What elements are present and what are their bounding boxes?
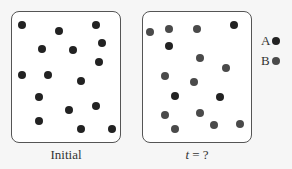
particle-a-dot bbox=[55, 27, 63, 35]
particle-a-dot bbox=[18, 21, 26, 29]
particle-a-dot bbox=[230, 21, 238, 29]
particle-b-dot bbox=[193, 25, 201, 33]
particle-a-dot bbox=[92, 21, 100, 29]
particle-a-dot bbox=[95, 58, 103, 66]
particle-b-dot bbox=[171, 125, 179, 133]
panel-label-initial: Initial bbox=[11, 147, 121, 163]
particle-b-dot bbox=[222, 64, 230, 72]
legend-a-dot bbox=[272, 37, 280, 45]
particle-a-dot bbox=[38, 45, 46, 53]
particle-b-dot bbox=[161, 111, 169, 119]
particle-b-dot bbox=[196, 109, 204, 117]
particle-a-dot bbox=[69, 46, 77, 54]
particle-a-dot bbox=[18, 71, 26, 79]
particle-b-dot bbox=[196, 54, 204, 62]
particle-a-dot bbox=[65, 106, 73, 114]
particle-a-dot bbox=[92, 102, 100, 110]
particle-a-dot bbox=[35, 117, 43, 125]
particle-a-dot bbox=[98, 39, 106, 47]
panel-label-t: t = ? bbox=[142, 147, 252, 163]
particle-a-dot bbox=[77, 125, 85, 133]
particle-a-dot bbox=[171, 92, 179, 100]
legend-b-dot bbox=[272, 57, 280, 65]
particle-b-dot bbox=[190, 78, 198, 86]
panel-initial bbox=[11, 11, 121, 143]
particle-a-dot bbox=[35, 93, 43, 101]
particle-b-dot bbox=[161, 72, 169, 80]
particle-b-dot bbox=[236, 120, 244, 128]
particle-a-dot bbox=[216, 93, 224, 101]
legend-label-b: B bbox=[261, 53, 270, 69]
particle-a-dot bbox=[44, 71, 52, 79]
particle-a-dot bbox=[77, 77, 85, 85]
particle-b-dot bbox=[165, 25, 173, 33]
particle-b-dot bbox=[210, 121, 218, 129]
legend-label-a: A bbox=[261, 33, 270, 49]
particle-a-dot bbox=[108, 125, 116, 133]
particle-b-dot bbox=[146, 28, 154, 36]
particle-a-dot bbox=[165, 42, 173, 50]
